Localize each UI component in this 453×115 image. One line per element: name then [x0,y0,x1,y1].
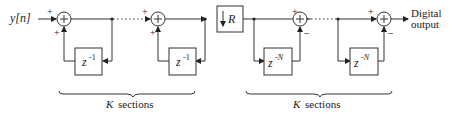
svg-text:z: z [353,56,359,70]
brace-combs [246,91,392,97]
svg-text:–: – [303,27,310,38]
section2-k: K [292,98,301,110]
svg-text:–: – [387,27,394,38]
sum1-plus-left: + [54,27,60,38]
section1-k: K [105,98,114,110]
integrator-1: z -1 [57,12,114,75]
svg-text:R: R [227,12,236,26]
section2-text: sections [305,98,340,110]
svg-text:z: z [175,55,181,69]
svg-text:-N: -N [361,53,370,62]
svg-text:-1: -1 [89,53,96,62]
svg-text:-N: -N [275,53,284,62]
cic-filter-diagram: y[n] + + z -1 + + z -1 R [0,0,453,115]
svg-text:z: z [267,56,273,70]
comb-1: z -N – [254,12,310,75]
decimator: R [217,6,243,32]
svg-text:z: z [81,55,87,69]
integrator-k: z -1 [151,12,207,75]
input-label: y[n] [9,11,31,25]
section1-text: sections [118,98,153,110]
svg-text:-1: -1 [183,53,190,62]
brace-integrators [59,91,195,97]
svg-text:+: + [142,6,148,17]
svg-text:+: + [368,6,374,17]
sum1-plus-top: + [47,6,53,17]
output-label-line2: output [411,18,439,30]
comb-k: z -N – [338,12,394,75]
svg-text:+: + [150,27,156,38]
